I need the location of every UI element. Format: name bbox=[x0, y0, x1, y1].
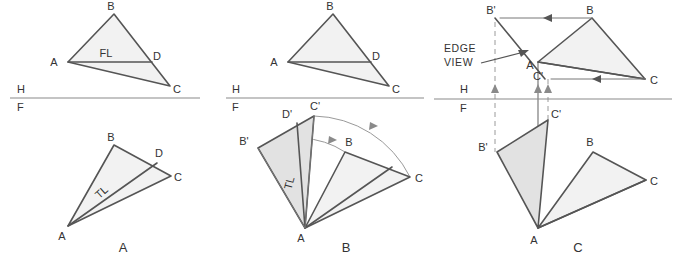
projector-arrow-right bbox=[544, 84, 552, 93]
edge-view-note-line2: VIEW bbox=[444, 56, 473, 68]
reference-label-f: F bbox=[232, 101, 239, 113]
vertex-label-b-prime: B' bbox=[478, 141, 487, 153]
vertex-label-a: A bbox=[58, 230, 66, 242]
panel-caption-a: A bbox=[119, 240, 128, 255]
triangle-abprime-cprime bbox=[258, 116, 314, 228]
edge-view-leader-arrowhead bbox=[518, 50, 529, 57]
panel-a-horizontal-view: A B C D FL bbox=[50, 0, 181, 95]
vertex-label-a: A bbox=[530, 234, 538, 246]
vertex-label-b: B bbox=[345, 136, 352, 148]
reference-label-h: H bbox=[232, 83, 240, 95]
edge-view-note-line1: EDGE bbox=[444, 42, 476, 54]
vertex-label-d: D bbox=[155, 147, 163, 159]
vertex-label-d: D bbox=[153, 50, 161, 62]
reference-label-h: H bbox=[17, 83, 25, 95]
projector-arrow-left bbox=[491, 84, 499, 93]
vertex-label-c: C bbox=[650, 175, 658, 187]
panel-a: A B C D FL H F A B C D TL A bbox=[10, 0, 200, 255]
vertex-label-c: C bbox=[173, 83, 181, 95]
vertex-label-d: D bbox=[372, 50, 380, 62]
panel-c-edge-view-callout: EDGE VIEW bbox=[444, 42, 529, 68]
figure-canvas: A B C D FL H F A B C D TL A A bbox=[0, 0, 674, 265]
vertex-label-c: C bbox=[650, 74, 658, 86]
vertex-label-c: C bbox=[392, 83, 400, 95]
vertex-label-a: A bbox=[270, 56, 278, 68]
arc-arrowhead-middle bbox=[328, 136, 337, 144]
triangle-abprime-cprime-front bbox=[497, 120, 548, 228]
vertex-label-b: B bbox=[107, 0, 114, 12]
reference-label-f: F bbox=[460, 102, 467, 114]
frontal-line-label-fl: FL bbox=[100, 47, 113, 59]
vertex-label-a: A bbox=[50, 56, 58, 68]
panel-caption-c: C bbox=[573, 240, 582, 255]
reference-label-f: F bbox=[17, 101, 24, 113]
panel-a-frontal-view: A B C D TL bbox=[58, 131, 182, 242]
panel-c: A B C B' C' EDGE VIEW H F A B C B' bbox=[434, 4, 672, 255]
panel-b: A B C D H F A B bbox=[226, 0, 424, 255]
reference-label-h: H bbox=[460, 83, 468, 95]
vertex-label-b-prime: B' bbox=[486, 4, 495, 16]
vertex-label-b: B bbox=[107, 131, 114, 143]
triangle-abc-front bbox=[538, 152, 646, 228]
panel-b-horizontal-view: A B C D bbox=[270, 0, 400, 95]
move-arrowhead-c bbox=[592, 75, 601, 83]
vertex-label-b: B bbox=[586, 4, 593, 16]
projector-arrow-mid bbox=[534, 84, 542, 93]
vertex-label-c: C bbox=[174, 171, 182, 183]
move-arrowhead-b bbox=[543, 14, 552, 22]
vertex-label-b-prime: B' bbox=[239, 135, 248, 147]
panel-caption-b: B bbox=[342, 240, 351, 255]
vertex-label-c-prime: C' bbox=[310, 100, 320, 112]
panel-a-reference-line: H F bbox=[10, 83, 200, 113]
panel-c-frontal-view: A B C B' C' bbox=[478, 108, 658, 246]
edge-view-leader-line bbox=[481, 52, 524, 63]
vertex-label-c: C bbox=[415, 172, 423, 184]
vertex-label-b: B bbox=[586, 136, 593, 148]
vertex-label-c-prime: C' bbox=[551, 108, 561, 120]
panel-c-horizontal-view: A B C B' C' bbox=[486, 4, 658, 86]
vertex-label-d-prime: D' bbox=[282, 108, 292, 120]
arc-arrowhead-outer bbox=[369, 122, 378, 130]
technical-drawing-figure: A B C D FL H F A B C D TL A A bbox=[0, 0, 674, 265]
vertex-label-c-prime: C' bbox=[533, 70, 543, 82]
vertex-label-a: A bbox=[297, 232, 305, 244]
panel-b-frontal-view-revolved: A B C B' C' D' TL bbox=[239, 100, 423, 244]
vertex-label-b: B bbox=[326, 0, 333, 12]
